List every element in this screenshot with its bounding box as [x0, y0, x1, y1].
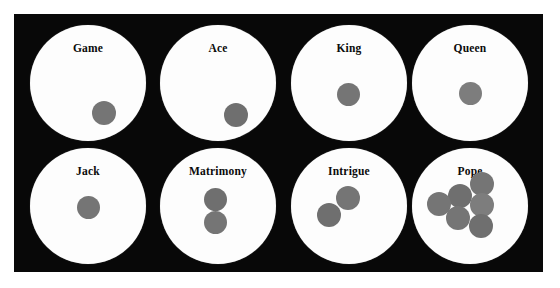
counter[interactable]	[204, 188, 227, 211]
compartment-label: Jack	[30, 165, 146, 177]
compartment-matrimony[interactable]: Matrimony	[160, 148, 276, 264]
compartment-queen[interactable]: Queen	[412, 25, 528, 141]
counter[interactable]	[446, 206, 470, 230]
compartment-label: Queen	[412, 42, 528, 54]
compartment-king[interactable]: King	[291, 25, 407, 141]
compartment-ace[interactable]: Ace	[160, 25, 276, 141]
counter[interactable]	[92, 101, 116, 125]
compartment-label: Ace	[160, 42, 276, 54]
counter[interactable]	[448, 184, 472, 208]
counter[interactable]	[469, 214, 493, 238]
counter[interactable]	[459, 82, 482, 105]
compartment-game[interactable]: Game	[30, 25, 146, 141]
counter[interactable]	[224, 103, 248, 127]
figure-canvas: Game Ace King Queen Jack Matrimony	[0, 0, 560, 288]
compartment-jack[interactable]: Jack	[30, 148, 146, 264]
counter[interactable]	[77, 196, 100, 219]
compartment-label: Game	[30, 42, 146, 54]
counter[interactable]	[204, 211, 227, 234]
compartment-intrigue[interactable]: Intrigue	[291, 148, 407, 264]
counter[interactable]	[317, 203, 341, 227]
compartment-pope[interactable]: Pope	[412, 148, 528, 264]
counter[interactable]	[337, 83, 360, 106]
board-plate: Game Ace King Queen Jack Matrimony	[14, 14, 543, 272]
compartment-label: King	[291, 42, 407, 54]
compartment-label: Pope	[412, 165, 528, 177]
counter[interactable]	[336, 186, 360, 210]
compartment-label: Intrigue	[291, 165, 407, 177]
compartment-label: Matrimony	[160, 165, 276, 177]
